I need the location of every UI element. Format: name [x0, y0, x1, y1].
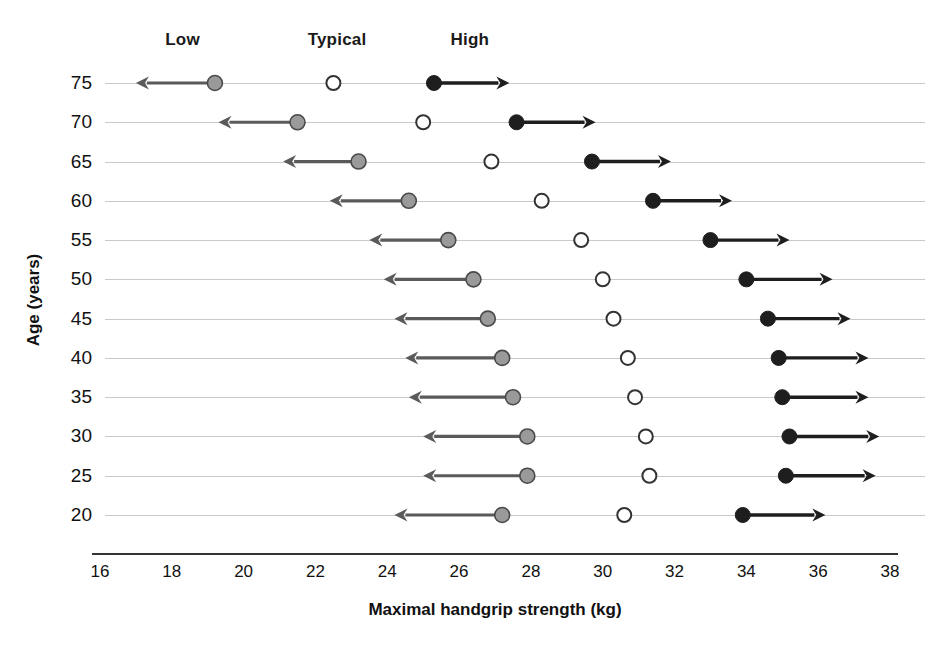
x-tick-label: 36 — [809, 562, 828, 582]
marker-typical — [617, 508, 631, 522]
legend-item-high: High — [451, 30, 490, 50]
marker-low — [480, 311, 495, 326]
marker-low — [495, 508, 510, 523]
marker-low — [520, 468, 535, 483]
x-tick-label: 30 — [593, 562, 612, 582]
marker-high — [771, 350, 786, 365]
y-tick-label: 40 — [42, 347, 92, 369]
marker-typical — [639, 429, 653, 443]
marker-high — [760, 311, 775, 326]
x-tick-label: 32 — [665, 562, 684, 582]
marker-low — [466, 272, 481, 287]
y-tick-label: 50 — [42, 268, 92, 290]
marker-low — [520, 429, 535, 444]
y-axis-title: Age (years) — [24, 240, 44, 360]
marker-high — [584, 154, 599, 169]
y-tick-label: 20 — [42, 504, 92, 526]
x-tick-label: 34 — [737, 562, 756, 582]
marker-typical — [484, 155, 498, 169]
marker-low — [351, 154, 366, 169]
marker-high — [739, 272, 754, 287]
marker-low — [401, 193, 416, 208]
marker-high — [778, 468, 793, 483]
y-tick-label: 75 — [42, 72, 92, 94]
y-tick-label: 55 — [42, 229, 92, 251]
marker-high — [775, 390, 790, 405]
y-tick-label: 65 — [42, 151, 92, 173]
marker-typical — [535, 194, 549, 208]
x-tick-label: 18 — [162, 562, 181, 582]
marker-typical — [416, 115, 430, 129]
x-tick-label: 38 — [881, 562, 900, 582]
marker-low — [441, 233, 456, 248]
marker-high — [509, 115, 524, 130]
marker-high — [426, 76, 441, 91]
x-tick-label: 20 — [234, 562, 253, 582]
marker-typical — [596, 272, 610, 286]
marker-low — [290, 115, 305, 130]
marker-typical — [607, 312, 621, 326]
x-tick-label: 24 — [378, 562, 397, 582]
x-tick-label: 16 — [91, 562, 110, 582]
x-axis-line — [92, 553, 898, 555]
x-axis-title: Maximal handgrip strength (kg) — [368, 600, 621, 620]
marker-low — [207, 76, 222, 91]
y-tick-label: 70 — [42, 111, 92, 133]
legend-item-typical: Typical — [308, 30, 367, 50]
x-tick-label: 22 — [306, 562, 325, 582]
marker-typical — [326, 76, 340, 90]
legend-item-low: Low — [165, 30, 200, 50]
x-tick-label: 26 — [450, 562, 469, 582]
handgrip-strength-chart: LowTypicalHigh 757065605550454035302520 … — [0, 0, 936, 653]
plot-area — [0, 0, 936, 653]
marker-typical — [642, 469, 656, 483]
marker-low — [505, 390, 520, 405]
marker-typical — [628, 390, 642, 404]
y-tick-label: 60 — [42, 190, 92, 212]
marker-high — [703, 233, 718, 248]
marker-low — [495, 350, 510, 365]
data-markers-layer — [0, 0, 936, 653]
y-tick-label: 25 — [42, 465, 92, 487]
marker-typical — [574, 233, 588, 247]
x-tick-label: 28 — [521, 562, 540, 582]
y-tick-label: 30 — [42, 425, 92, 447]
y-tick-label: 35 — [42, 386, 92, 408]
y-tick-label: 45 — [42, 308, 92, 330]
marker-high — [782, 429, 797, 444]
marker-high — [646, 193, 661, 208]
marker-high — [735, 508, 750, 523]
marker-typical — [621, 351, 635, 365]
